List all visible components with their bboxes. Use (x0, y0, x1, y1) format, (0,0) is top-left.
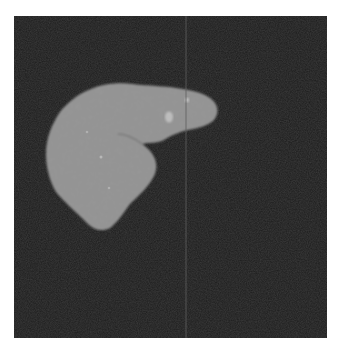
bright-spot (185, 98, 189, 102)
bright-spot (108, 187, 111, 190)
bright-spot (100, 156, 103, 159)
bright-lesion (165, 112, 173, 123)
image-canvas: Grayscale CT scan of a liver (0, 0, 343, 353)
bright-spot (86, 131, 89, 134)
ct-scan-image (14, 16, 327, 338)
ct-scan-panel (14, 16, 327, 338)
